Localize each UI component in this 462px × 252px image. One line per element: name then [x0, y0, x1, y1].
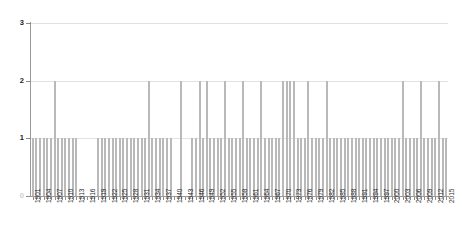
bar: [166, 138, 168, 196]
bar: [50, 138, 52, 196]
bar: [202, 138, 204, 196]
bar: [365, 138, 367, 196]
x-tick-label: 1940: [177, 189, 184, 203]
x-tick-mark: [272, 197, 273, 200]
bar: [144, 138, 146, 196]
bar: [333, 138, 335, 196]
bar: [220, 138, 222, 196]
bar: [213, 138, 215, 196]
bar: [112, 138, 114, 196]
bar: [278, 138, 280, 196]
bar: [423, 138, 425, 196]
x-tick-mark: [185, 197, 186, 200]
bar: [409, 138, 411, 196]
bar: [289, 81, 291, 196]
x-tick-label: 1988: [351, 189, 358, 203]
gridline-2: [31, 81, 448, 82]
x-tick-mark: [359, 197, 360, 200]
bar: [155, 138, 157, 196]
x-tick-label: 1916: [90, 189, 97, 203]
x-tick-label: 1937: [166, 189, 173, 203]
plot-area: [31, 23, 448, 196]
x-tick-label: 2009: [427, 189, 434, 203]
x-tick-label: 1997: [384, 189, 391, 203]
bar: [162, 138, 164, 196]
x-tick-label: 1943: [188, 189, 195, 203]
bar: [101, 138, 103, 196]
bar: [130, 138, 132, 196]
bar: [260, 81, 262, 196]
bar: [391, 138, 393, 196]
x-tick-label: 1934: [155, 189, 162, 203]
bar: [104, 138, 106, 196]
bar: [271, 138, 273, 196]
bar: [75, 138, 77, 196]
bar: [297, 138, 299, 196]
bar: [355, 138, 357, 196]
bar: [122, 138, 124, 196]
bar: [57, 138, 59, 196]
x-tick-label: 1985: [340, 189, 347, 203]
x-tick-mark: [283, 197, 284, 200]
bar: [387, 138, 389, 196]
x-tick-label: 1922: [112, 189, 119, 203]
bar: [151, 138, 153, 196]
bar: [442, 138, 444, 196]
bar-chart: 0123 19011904190719101913191619191922192…: [0, 0, 462, 252]
bar: [413, 138, 415, 196]
x-tick-label: 1904: [46, 189, 53, 203]
bar: [35, 138, 37, 196]
bar: [64, 138, 66, 196]
bar: [380, 138, 382, 196]
bar: [402, 81, 404, 196]
bar: [224, 81, 226, 196]
bar: [311, 138, 313, 196]
x-tick-label: 1982: [329, 189, 336, 203]
bar: [318, 138, 320, 196]
x-tick-label: 1928: [133, 189, 140, 203]
x-tick-mark: [381, 197, 382, 200]
bar: [141, 138, 143, 196]
bar: [300, 138, 302, 196]
bar: [133, 138, 135, 196]
bar: [315, 138, 317, 196]
x-tick-label: 2006: [416, 189, 423, 203]
bar: [97, 138, 99, 196]
bar: [384, 138, 386, 196]
bar: [54, 81, 56, 196]
x-tick-label: 1973: [296, 189, 303, 203]
bar: [68, 138, 70, 196]
bar: [39, 138, 41, 196]
x-tick-label: 1955: [231, 189, 238, 203]
x-tick-label: 1952: [220, 189, 227, 203]
bar: [137, 138, 139, 196]
bar: [438, 81, 440, 196]
x-tick-label: 1991: [362, 189, 369, 203]
bar: [209, 138, 211, 196]
bar: [228, 138, 230, 196]
bar: [242, 81, 244, 196]
bar: [43, 138, 45, 196]
x-tick-label: 1946: [199, 189, 206, 203]
bar: [304, 138, 306, 196]
x-tick-label: 1901: [35, 189, 42, 203]
x-tick-label: 2012: [438, 189, 445, 203]
bar: [369, 138, 371, 196]
bar: [72, 138, 74, 196]
bar: [398, 138, 400, 196]
bar: [431, 138, 433, 196]
x-tick-label: 1910: [68, 189, 75, 203]
bar: [32, 138, 34, 196]
bar: [282, 81, 284, 196]
bar: [358, 138, 360, 196]
bar: [119, 138, 121, 196]
bar: [362, 138, 364, 196]
bar: [108, 138, 110, 196]
x-tick-label: 1907: [57, 189, 64, 203]
bar: [61, 138, 63, 196]
x-tick-mark: [370, 197, 371, 200]
x-tick-label: 1994: [373, 189, 380, 203]
bar: [264, 138, 266, 196]
bar: [420, 81, 422, 196]
x-tick-label: 1919: [101, 189, 108, 203]
